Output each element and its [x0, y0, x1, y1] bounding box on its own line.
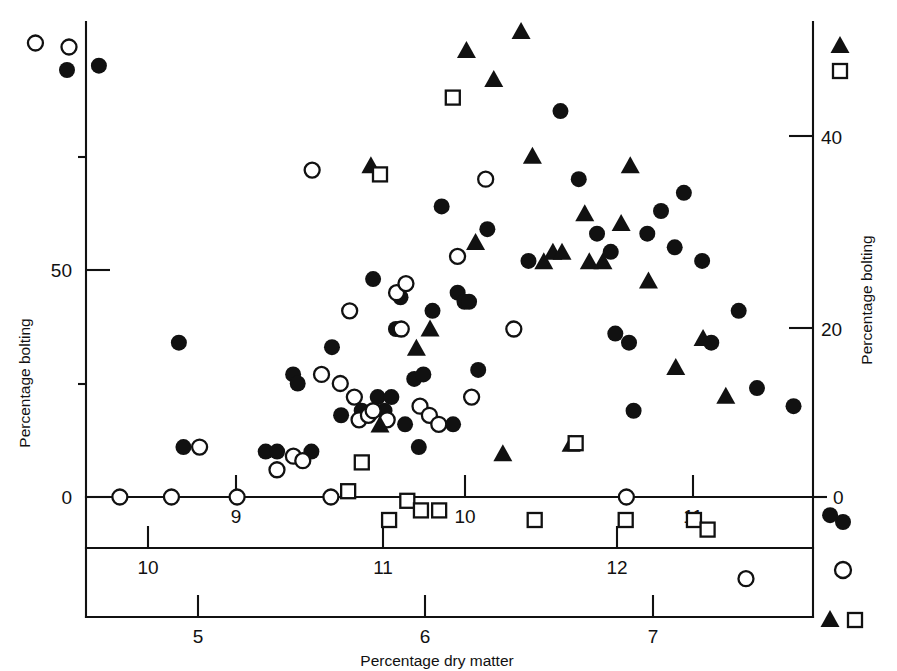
data-point — [355, 455, 369, 469]
data-point — [446, 91, 460, 105]
data-point — [569, 436, 583, 450]
data-point — [822, 507, 838, 523]
data-point — [621, 335, 637, 351]
data-point — [421, 320, 440, 337]
data-point — [305, 163, 320, 178]
x-top-tick-label-10: 10 — [454, 506, 475, 527]
data-point — [192, 440, 207, 455]
y-right-tick-label-40: 40 — [821, 127, 842, 148]
data-point — [464, 390, 479, 405]
data-point — [171, 335, 187, 351]
data-point — [552, 103, 568, 119]
data-point — [484, 70, 503, 87]
data-point — [366, 403, 381, 418]
scatter-figure: 0 50 Percentage bolting 40 20 0 Percenta… — [0, 0, 897, 671]
data-point — [333, 376, 348, 391]
data-point — [528, 513, 542, 527]
data-point — [506, 322, 521, 337]
x-bottom-tick-label-5: 5 — [193, 626, 204, 647]
x-bottom-tick-label-7: 7 — [648, 626, 659, 647]
data-point — [639, 272, 658, 289]
data-point — [457, 41, 476, 58]
y-axis-right-ticks: 40 20 0 Percentage bolting — [789, 127, 875, 508]
data-point — [398, 276, 413, 291]
data-point — [432, 503, 446, 517]
legend-open-square-y-right — [833, 64, 847, 78]
x-axis-bottom-ticks: 5 6 7 Percentage dry matter — [193, 595, 659, 669]
data-point — [461, 294, 477, 310]
data-point — [470, 362, 486, 378]
data-point — [269, 462, 284, 477]
data-point — [341, 484, 355, 498]
data-point — [676, 185, 692, 201]
data-point — [626, 403, 642, 419]
data-point — [112, 490, 127, 505]
data-point — [28, 36, 43, 51]
legend-filled-triangle-y-right — [831, 36, 850, 53]
data-point — [701, 523, 715, 537]
data-point — [400, 494, 414, 508]
data-point — [619, 513, 633, 527]
data-point — [445, 416, 461, 432]
data-point — [407, 339, 426, 356]
data-point — [91, 58, 107, 74]
x-axis-middle-ticks: 10 11 12 — [137, 526, 627, 578]
y-right-tick-label-20: 20 — [821, 319, 842, 340]
data-point — [164, 490, 179, 505]
x-middle-tick-label-10: 10 — [137, 557, 158, 578]
data-point — [479, 221, 495, 237]
data-point — [478, 172, 493, 187]
data-point — [639, 226, 655, 242]
legend-open-square-x-bottom — [848, 613, 862, 627]
data-point — [493, 444, 512, 461]
data-point — [269, 444, 285, 460]
data-point — [653, 203, 669, 219]
data-point — [415, 366, 431, 382]
data-point — [575, 204, 594, 221]
data-point — [324, 339, 340, 355]
data-point — [365, 271, 381, 287]
data-point — [342, 303, 357, 318]
data-point — [694, 253, 710, 269]
data-point — [431, 417, 446, 432]
data-point — [731, 303, 747, 319]
series-open-circle — [28, 36, 754, 587]
legend-open-circle-x-middle — [835, 562, 851, 578]
data-points-layer — [28, 22, 838, 586]
data-point — [667, 239, 683, 255]
x-bottom-tick-label-6: 6 — [420, 626, 431, 647]
data-point — [295, 453, 310, 468]
data-point — [383, 389, 399, 405]
data-point — [589, 226, 605, 242]
legend-markers — [59, 36, 862, 627]
data-point — [434, 198, 450, 214]
data-point — [687, 513, 701, 527]
data-point — [619, 490, 634, 505]
y-left-tick-label-0: 0 — [61, 487, 72, 508]
data-point — [397, 416, 413, 432]
data-point — [512, 22, 531, 39]
x-middle-tick-label-12: 12 — [606, 557, 627, 578]
data-point — [230, 490, 245, 505]
data-point — [621, 156, 640, 173]
data-point — [411, 439, 427, 455]
y-left-tick-label-50: 50 — [51, 260, 72, 281]
data-point — [749, 380, 765, 396]
data-point — [716, 387, 735, 404]
y-right-tick-label-0: 0 — [833, 487, 844, 508]
data-point — [394, 322, 409, 337]
data-point — [175, 439, 191, 455]
data-point — [786, 398, 802, 414]
data-point — [520, 253, 536, 269]
data-point — [333, 407, 349, 423]
legend-filled-triangle-x-bottom — [821, 610, 840, 627]
y-axis-left-title: Percentage bolting — [16, 318, 33, 447]
data-point — [347, 390, 362, 405]
x-top-tick-label-9: 9 — [231, 506, 242, 527]
legend-filled-circle-y-left — [59, 62, 75, 78]
data-point — [571, 171, 587, 187]
data-point — [314, 367, 329, 382]
scatter-plot-svg: 0 50 Percentage bolting 40 20 0 Percenta… — [0, 0, 897, 671]
data-point — [414, 503, 428, 517]
x-middle-tick-label-11: 11 — [373, 557, 393, 578]
